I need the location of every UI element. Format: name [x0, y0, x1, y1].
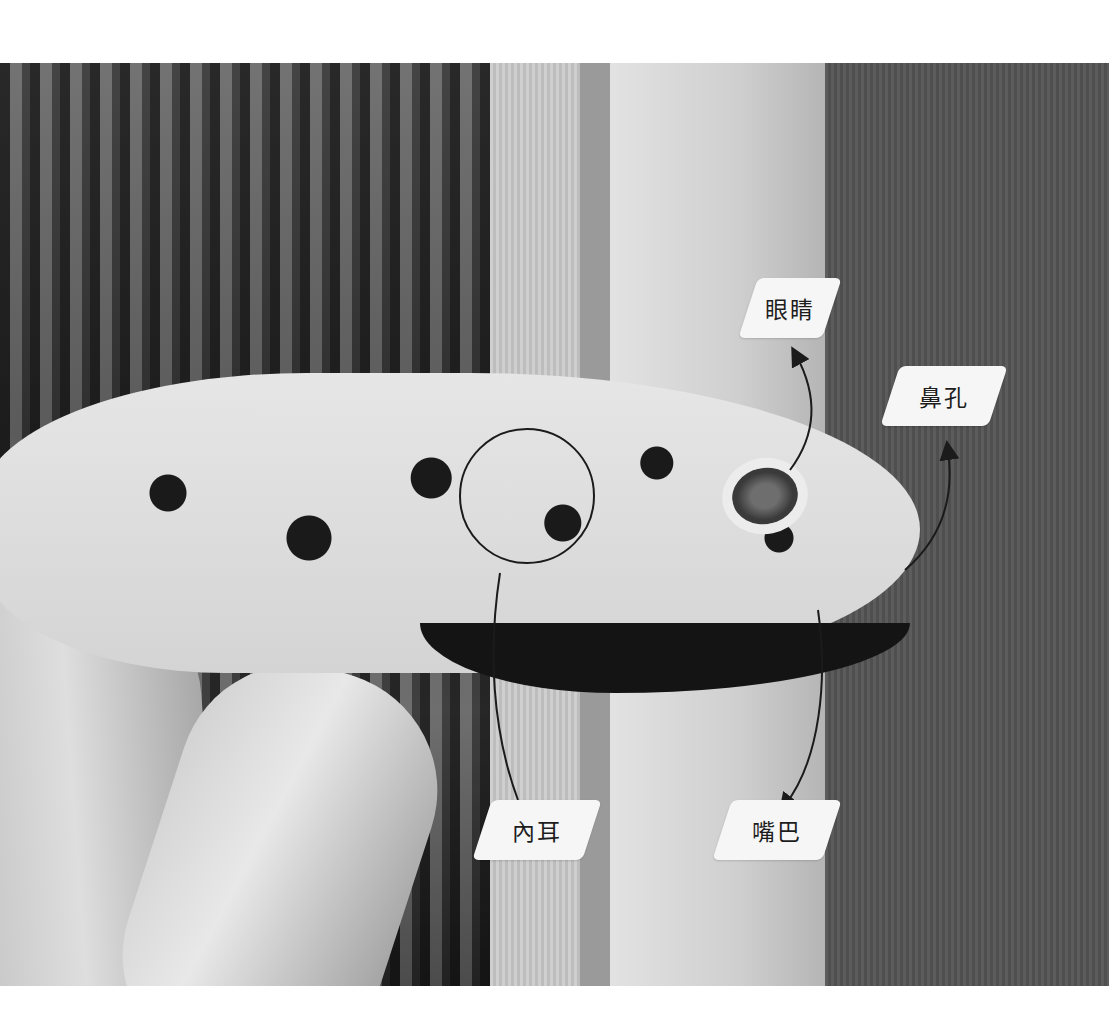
label-nostril-text: 鼻孔 — [919, 379, 969, 413]
label-inner-ear: 內耳 — [482, 800, 592, 860]
inner-ear-highlight-circle — [459, 428, 595, 564]
label-inner-ear-text: 內耳 — [512, 813, 562, 847]
label-mouth: 嘴巴 — [722, 800, 832, 860]
label-nostril: 鼻孔 — [890, 366, 998, 426]
label-eye: 眼睛 — [748, 278, 832, 338]
label-eye-text: 眼睛 — [765, 291, 815, 325]
label-mouth-text: 嘴巴 — [752, 813, 802, 847]
